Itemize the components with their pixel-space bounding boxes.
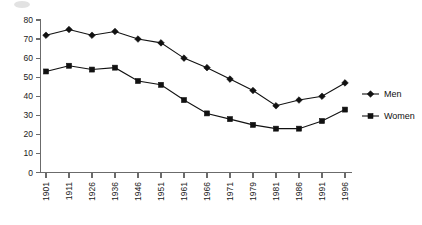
- y-tick-label: 50: [24, 72, 34, 82]
- x-tick-label: 1946: [133, 182, 143, 201]
- x-tick-label: 1911: [64, 182, 74, 201]
- y-tick-label: 10: [24, 148, 34, 158]
- data-point-marker: [274, 126, 279, 131]
- y-tick-label: 70: [24, 34, 34, 44]
- x-tick-label: 1979: [248, 182, 258, 201]
- data-point-marker: [342, 80, 349, 87]
- data-point-marker: [159, 82, 164, 87]
- data-series-layer: [43, 26, 349, 131]
- x-tick-label: 1966: [202, 182, 212, 201]
- data-point-marker: [367, 91, 374, 98]
- data-point-marker: [251, 122, 256, 127]
- y-tick-label: 80: [24, 15, 34, 25]
- x-tick-label: 1951: [156, 182, 166, 201]
- data-point-marker: [368, 114, 373, 119]
- data-point-marker: [227, 76, 234, 83]
- data-point-marker: [90, 67, 95, 72]
- line-chart: 01020304050607080 1901191119261936194619…: [0, 0, 422, 225]
- y-tick-label: 20: [24, 129, 34, 139]
- data-point-marker: [181, 55, 188, 62]
- data-point-marker: [319, 93, 326, 100]
- x-tick-label: 1981: [271, 182, 281, 201]
- data-point-marker: [228, 117, 233, 122]
- legend-label: Men: [384, 89, 402, 99]
- x-axis-ticks: 1901191119261936194619511961196619711979…: [41, 173, 350, 201]
- y-tick-label: 30: [24, 110, 34, 120]
- series-men: [43, 26, 349, 109]
- series-line: [46, 66, 345, 129]
- data-point-marker: [112, 28, 119, 35]
- x-tick-label: 1991: [317, 182, 327, 201]
- data-point-marker: [113, 65, 118, 70]
- data-point-marker: [343, 107, 348, 112]
- data-point-marker: [43, 32, 50, 39]
- data-point-marker: [89, 32, 96, 39]
- data-point-marker: [320, 119, 325, 124]
- data-point-marker: [135, 36, 142, 43]
- data-point-marker: [66, 26, 73, 33]
- x-tick-label: 1996: [340, 182, 350, 201]
- x-tick-label: 1926: [87, 182, 97, 201]
- chart-canvas: 01020304050607080 1901191119261936194619…: [0, 0, 422, 225]
- x-tick-label: 1901: [41, 182, 51, 201]
- data-point-marker: [182, 98, 187, 103]
- legend-label: Women: [384, 111, 415, 121]
- data-point-marker: [297, 126, 302, 131]
- data-point-marker: [136, 79, 141, 84]
- y-tick-label: 0: [28, 168, 33, 178]
- legend-item-women: Women: [362, 111, 415, 121]
- y-tick-label: 40: [24, 91, 34, 101]
- y-axis-ticks: 01020304050607080: [24, 15, 41, 178]
- chart-legend: MenWomen: [362, 89, 415, 121]
- x-tick-label: 1961: [179, 182, 189, 201]
- data-point-marker: [44, 69, 49, 74]
- series-women: [44, 63, 348, 131]
- data-point-marker: [204, 64, 211, 71]
- data-point-marker: [250, 87, 257, 94]
- data-point-marker: [205, 111, 210, 116]
- legend-item-men: Men: [362, 89, 402, 99]
- x-tick-label: 1986: [294, 182, 304, 201]
- data-point-marker: [273, 102, 280, 109]
- x-tick-label: 1971: [225, 182, 235, 201]
- x-tick-label: 1936: [110, 182, 120, 201]
- data-point-marker: [67, 63, 72, 68]
- data-point-marker: [296, 97, 303, 104]
- y-tick-label: 60: [24, 53, 34, 63]
- data-point-marker: [158, 40, 165, 47]
